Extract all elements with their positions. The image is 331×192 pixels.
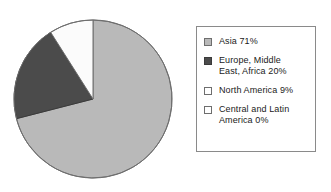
legend-item-central-and-latin-america[interactable]: Central and Latin America 0% (197, 104, 315, 126)
chart-legend: Asia 71% Europe, Middle East, Africa 20%… (196, 26, 316, 152)
legend-swatch-asia (204, 38, 212, 46)
pie-chart-figure: Asia 71% Europe, Middle East, Africa 20%… (0, 0, 331, 192)
pie-slice-group (14, 20, 172, 178)
legend-swatch-north-america (204, 87, 212, 95)
pie-chart-svg (13, 18, 173, 180)
legend-label-asia: Asia 71% (219, 36, 258, 47)
legend-item-north-america[interactable]: North America 9% (197, 85, 315, 96)
legend-label-north-america: North America 9% (219, 85, 293, 96)
legend-item-europe-middle-east-africa[interactable]: Europe, Middle East, Africa 20% (197, 55, 315, 77)
legend-label-central-and-latin-america: Central and Latin America 0% (219, 104, 289, 126)
legend-item-list: Asia 71% Europe, Middle East, Africa 20%… (197, 27, 315, 126)
legend-swatch-central-and-latin-america (204, 106, 212, 114)
legend-item-asia[interactable]: Asia 71% (197, 36, 315, 47)
pie-chart-plot-area (13, 18, 173, 180)
legend-swatch-europe-middle-east-africa (204, 57, 212, 65)
legend-label-europe-middle-east-africa: Europe, Middle East, Africa 20% (219, 55, 287, 77)
